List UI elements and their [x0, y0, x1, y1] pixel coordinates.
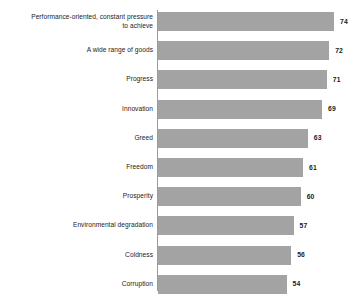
- bar[interactable]: [158, 129, 308, 148]
- category-label: Progress: [3, 75, 153, 84]
- bar-row[interactable]: Coldness 56: [0, 246, 362, 265]
- bar-value-label: 56: [297, 251, 305, 259]
- bar-row[interactable]: Prosperity 60: [0, 187, 362, 206]
- category-label: Environmental degradation: [3, 221, 153, 230]
- category-label: Freedom: [3, 163, 153, 172]
- bar[interactable]: [158, 158, 303, 177]
- bar-row[interactable]: Progress 71: [0, 70, 362, 89]
- bar[interactable]: [158, 216, 294, 235]
- bar-row[interactable]: Environmental degradation 57: [0, 216, 362, 235]
- bar-row[interactable]: Performance-oriented, constant pressure …: [0, 12, 362, 31]
- bar-value-label: 71: [333, 76, 341, 84]
- bar-row[interactable]: Innovation 69: [0, 100, 362, 119]
- bar-chart: Performance-oriented, constant pressure …: [0, 0, 362, 306]
- bar[interactable]: [158, 275, 287, 294]
- bar-value-label: 57: [300, 222, 308, 230]
- category-label: Innovation: [3, 105, 153, 114]
- bar-value-label: 69: [328, 105, 336, 113]
- bar[interactable]: [158, 41, 329, 60]
- bar-row[interactable]: A wide range of goods 72: [0, 41, 362, 60]
- category-label: Prosperity: [3, 192, 153, 201]
- bar-value-label: 54: [293, 280, 301, 288]
- bar[interactable]: [158, 12, 334, 31]
- bar[interactable]: [158, 100, 322, 119]
- bar-row[interactable]: Freedom 61: [0, 158, 362, 177]
- category-label: Corruption: [3, 280, 153, 289]
- bar-value-label: 61: [309, 164, 317, 172]
- bar-value-label: 74: [340, 18, 348, 26]
- bar[interactable]: [158, 187, 301, 206]
- category-label: Performance-oriented, constant pressure …: [3, 13, 153, 30]
- bar[interactable]: [158, 70, 327, 89]
- bar-row[interactable]: Greed 63: [0, 129, 362, 148]
- bar-value-label: 63: [314, 134, 322, 142]
- bar-value-label: 60: [307, 193, 315, 201]
- category-label: Greed: [3, 134, 153, 143]
- bar[interactable]: [158, 246, 291, 265]
- category-label: A wide range of goods: [3, 46, 153, 55]
- category-label: Coldness: [3, 251, 153, 260]
- bar-row[interactable]: Corruption 54: [0, 275, 362, 294]
- bar-value-label: 72: [335, 47, 343, 55]
